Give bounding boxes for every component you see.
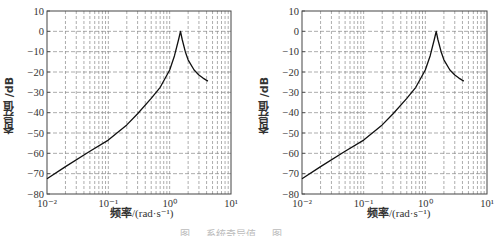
y-tick-label: −40: [283, 107, 299, 118]
y-tick-label: −10: [28, 46, 44, 57]
y-tick-label: −70: [283, 168, 299, 179]
y-tick-label: −40: [28, 107, 44, 118]
grid: [302, 11, 487, 194]
chart-right: 100−10−20−30−40−50−60−70−8010⁻²10⁻¹10⁰10…: [255, 0, 500, 222]
x-axis-label-cn: 频率: [110, 207, 132, 220]
figure-caption: 图 ... 系统奇异值 ... 图: [180, 226, 320, 236]
x-tick-label: 10¹: [480, 198, 494, 209]
x-axis-label-unit: /(rad·s⁻¹): [389, 207, 430, 219]
y-tick-label: −20: [28, 67, 44, 78]
y-tick-label: 10: [289, 6, 300, 17]
y-tick-label: −60: [283, 148, 299, 159]
x-axis-label: 频率/(rad·s⁻¹): [110, 204, 173, 220]
grid: [47, 11, 231, 194]
y-tick-label: −50: [283, 128, 299, 139]
x-axis-label-unit: /(rad·s⁻¹): [132, 207, 173, 219]
y-tick-label: −70: [28, 168, 44, 179]
plot-area-left: 100−10−20−30−40−50−60−70−8010⁻²10⁻¹10⁰10…: [0, 0, 250, 222]
x-axis-label: 频率/(rad·s⁻¹): [367, 204, 430, 220]
plot-frame: [47, 11, 231, 194]
singular-value-curve: [302, 31, 464, 179]
y-tick-label: −20: [283, 67, 299, 78]
y-axis-label: 奇异值 /dB: [257, 60, 275, 150]
y-tick-label: −30: [283, 87, 299, 98]
y-axis-label: 奇异值 /dB: [2, 60, 20, 150]
plot-frame: [302, 11, 487, 194]
x-tick-label: 10¹: [224, 198, 238, 209]
plot-area-right: 100−10−20−30−40−50−60−70−8010⁻²10⁻¹10⁰10…: [255, 0, 500, 222]
y-tick-label: −10: [283, 46, 299, 57]
y-tick-label: −60: [28, 148, 44, 159]
x-tick-label: 10⁻²: [292, 198, 312, 209]
y-tick-label: −50: [28, 128, 44, 139]
y-tick-label: −30: [28, 87, 44, 98]
chart-left: 100−10−20−30−40−50−60−70−8010⁻²10⁻¹10⁰10…: [0, 0, 250, 222]
y-tick-label: 0: [294, 26, 299, 37]
singular-value-curve: [47, 31, 208, 179]
x-axis-label-cn: 频率: [367, 207, 389, 220]
y-tick-label: 0: [39, 26, 44, 37]
y-tick-label: 10: [34, 6, 45, 17]
x-tick-label: 10⁻²: [37, 198, 57, 209]
